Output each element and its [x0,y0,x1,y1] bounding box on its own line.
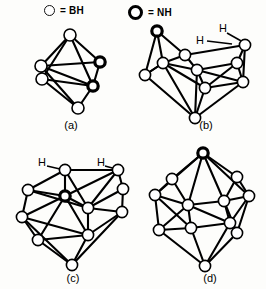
vertex-bh [66,259,77,270]
bridging-h-label: H [219,22,227,34]
structure-d-edges [155,153,249,266]
vertex-bh [243,190,254,201]
vertex-bh [36,73,48,85]
structure-a-edges [41,35,100,108]
vertex-bh [72,102,84,114]
vertex-bh [117,183,128,194]
bridging-h-label: H [196,34,204,46]
structure-a-svg: H H [0,0,266,289]
vertex-bh [157,57,168,68]
structure-c-vertices [16,164,128,270]
structure-c-edges [22,170,123,265]
vertex-bh [237,76,248,87]
vertex-bh [179,49,190,60]
vertex-bh [166,173,177,184]
vertex-bh [16,211,27,222]
azaborane-cluster-figure: = BH = NH [0,0,266,289]
vertex-bh [191,64,202,75]
vertex-bh [112,164,123,175]
caption-a: (a) [51,119,91,131]
vertex-bh [231,57,242,68]
vertex-bh [139,69,150,80]
structure-c-bridging-h-bonds [47,166,116,169]
vertex-bh [224,217,235,228]
vertex-nh [152,26,162,36]
vertex-bh [59,164,70,175]
vertex-bh [199,82,210,93]
vertex-bh [153,224,164,235]
vertex-nh [60,191,70,201]
vertex-bh [149,189,160,200]
vertex-bh [231,227,242,238]
vertex-nh [95,57,105,67]
vertex-bh [64,29,76,41]
caption-b: (b) [186,119,226,131]
vertex-bh [199,260,210,271]
vertex-bh [218,195,229,206]
vertex-bh [35,60,47,72]
caption-d: (d) [190,272,230,284]
bridging-h-label: H [38,156,46,168]
vertex-bh [231,171,242,182]
vertex-bh [116,206,127,217]
caption-c: (c) [53,272,93,284]
vertex-bh [239,39,250,50]
structure-b-bridging-h-bonds [207,33,243,44]
vertex-bh [22,184,33,195]
vertex-nh [88,81,98,91]
vertex-bh [182,199,193,210]
vertex-nh [198,148,208,158]
vertex-bh [32,234,43,245]
vertex-bh [82,202,93,213]
vertex-bh [185,222,196,233]
vertex-bh [82,229,93,240]
bridging-h-label: H [97,156,105,168]
